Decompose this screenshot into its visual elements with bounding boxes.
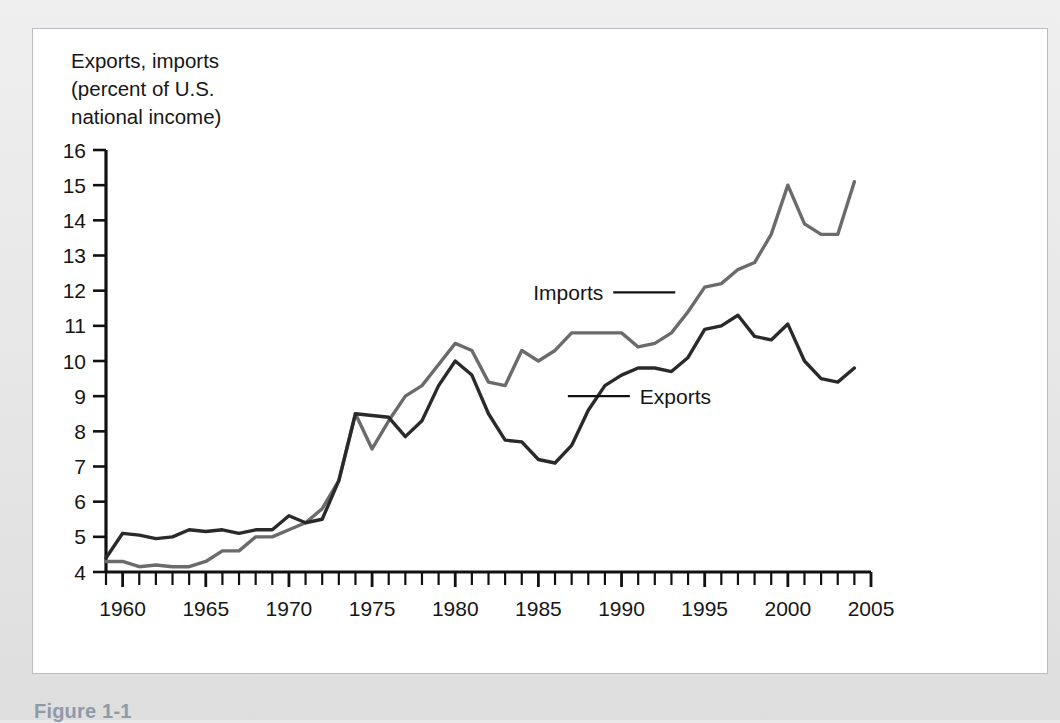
x-axis-tick-label: 1960 bbox=[99, 597, 146, 620]
figure-panel: Exports, imports (percent of U.S. nation… bbox=[32, 28, 1048, 674]
x-axis-tick-label: 1965 bbox=[182, 597, 229, 620]
y-axis-tick-label: 10 bbox=[63, 350, 86, 373]
y-axis-tick-label: 6 bbox=[74, 490, 86, 513]
y-axis-tick-label: 12 bbox=[63, 279, 86, 302]
y-axis-tick-label: 8 bbox=[74, 420, 86, 443]
x-axis-tick-label: 1995 bbox=[681, 597, 728, 620]
annotation-label-exports: Exports bbox=[640, 385, 711, 408]
series-line-imports bbox=[106, 182, 854, 567]
figure-caption: Figure 1-1 bbox=[34, 700, 132, 723]
x-axis-tick-label: 1985 bbox=[515, 597, 562, 620]
x-axis-tick-label: 1990 bbox=[598, 597, 645, 620]
y-axis-tick-label: 15 bbox=[63, 174, 86, 197]
x-axis-tick-label: 1975 bbox=[349, 597, 396, 620]
y-axis-tick-label: 5 bbox=[74, 525, 86, 548]
y-axis-tick-label: 4 bbox=[74, 561, 86, 584]
x-axis-tick-label: 1980 bbox=[432, 597, 479, 620]
y-axis-tick-label: 9 bbox=[74, 385, 86, 408]
y-axis-tick-label: 14 bbox=[63, 209, 87, 232]
y-axis-tick-label: 11 bbox=[64, 314, 86, 337]
y-axis-tick-label: 7 bbox=[74, 455, 86, 478]
x-axis-tick-label: 2005 bbox=[848, 597, 895, 620]
annotation-label-imports: Imports bbox=[533, 281, 603, 304]
y-axis-tick-label: 13 bbox=[63, 244, 86, 267]
x-axis-tick-label: 1970 bbox=[266, 597, 313, 620]
x-axis-tick-label: 2000 bbox=[764, 597, 811, 620]
series-line-exports bbox=[106, 315, 854, 558]
line-chart: 4567891011121314151619601965197019751980… bbox=[33, 29, 1049, 675]
y-axis-tick-label: 16 bbox=[63, 139, 86, 162]
